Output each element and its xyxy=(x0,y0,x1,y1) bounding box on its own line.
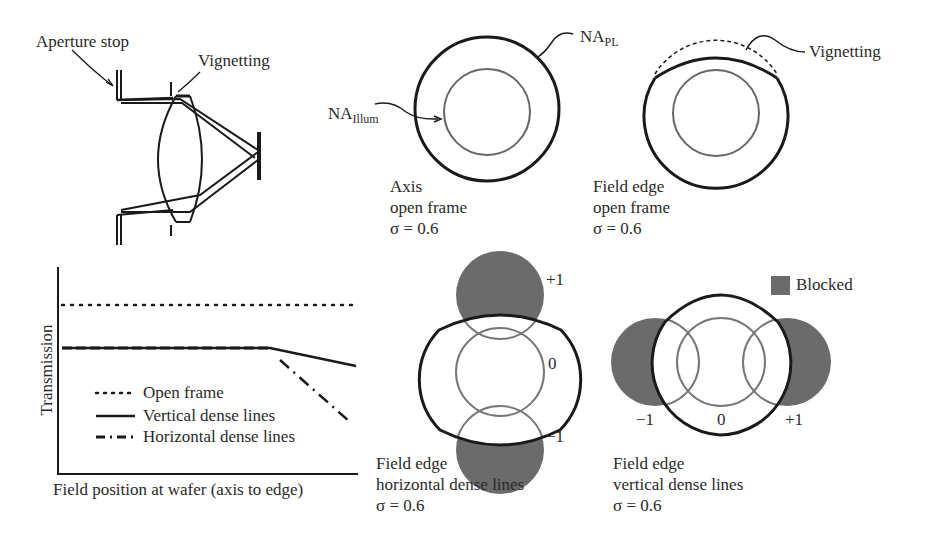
edge-open-frame-caption: Field edge open frame σ = 0.6 xyxy=(593,176,670,239)
caption-line: Axis xyxy=(390,176,467,197)
chart-y-axis-label: Transmission xyxy=(37,315,57,425)
blocked-legend-label: Blocked xyxy=(796,275,853,295)
caption-line: σ = 0.6 xyxy=(593,218,670,239)
caption-line: vertical dense lines xyxy=(613,474,743,495)
order-zero-label: 0 xyxy=(548,354,557,374)
caption-line: Field edge xyxy=(376,453,524,474)
na-pl-label: NAPL xyxy=(580,27,619,48)
caption-line: Field edge xyxy=(593,176,670,197)
na-pl-sub: PL xyxy=(605,35,619,49)
legend-horizontal-dense-lines: Horizontal dense lines xyxy=(143,427,295,447)
order-minus-one-label: −1 xyxy=(636,410,654,430)
order-plus-one-label: +1 xyxy=(785,410,803,430)
legend-vertical-dense-lines: Vertical dense lines xyxy=(143,406,275,426)
axis-open-frame-pupil xyxy=(375,33,573,181)
na-illum-main: NA xyxy=(328,104,353,123)
lens-diagram xyxy=(72,50,261,245)
chart-x-axis-label: Field position at wafer (axis to edge) xyxy=(53,480,303,500)
na-illum-sub: Illum xyxy=(353,112,379,126)
caption-line: Field edge xyxy=(613,453,743,474)
na-illum-label: NAIllum xyxy=(328,104,379,125)
caption-line: open frame xyxy=(390,197,467,218)
blocked-swatch xyxy=(771,276,790,295)
order-zero-label: 0 xyxy=(717,410,726,430)
lens-vignetting-label: Vignetting xyxy=(198,51,270,71)
caption-line: σ = 0.6 xyxy=(390,218,467,239)
caption-line: σ = 0.6 xyxy=(376,495,524,516)
edge-vertical-caption: Field edge vertical dense lines σ = 0.6 xyxy=(613,453,743,516)
caption-line: σ = 0.6 xyxy=(613,495,743,516)
edge-vignetting-label: Vignetting xyxy=(809,42,881,62)
edge-open-frame-pupil xyxy=(644,36,805,188)
order-plus-one-label: +1 xyxy=(546,270,564,290)
legend-open-frame: Open frame xyxy=(143,383,224,403)
na-pl-main: NA xyxy=(580,27,605,46)
aperture-stop-label: Aperture stop xyxy=(36,32,129,52)
edge-horizontal-caption: Field edge horizontal dense lines σ = 0.… xyxy=(376,453,524,516)
axis-open-frame-caption: Axis open frame σ = 0.6 xyxy=(390,176,467,239)
order-minus-one-label: −1 xyxy=(546,427,564,447)
caption-line: open frame xyxy=(593,197,670,218)
caption-line: horizontal dense lines xyxy=(376,474,524,495)
